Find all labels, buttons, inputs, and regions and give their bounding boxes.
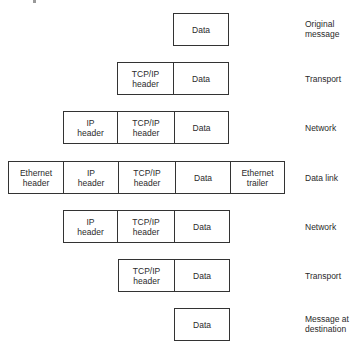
ethernet-trailer-cell: Ethernet trailer (230, 161, 285, 194)
data-cell: Data (175, 161, 230, 194)
layer-label-data-link: Data link (305, 173, 338, 183)
data-cell: Data (174, 259, 230, 292)
row-data-link: Ethernet header IP header TCP/IP header … (8, 161, 285, 194)
tcpip-header-cell: TCP/IP header (117, 210, 174, 243)
tcpip-header-cell: TCP/IP header (118, 259, 174, 292)
data-cell: Data (173, 62, 229, 95)
layer-label-network-receive: Network (305, 222, 336, 232)
layer-label-transport-receive: Transport (305, 271, 341, 281)
ethernet-header-cell: Ethernet header (8, 161, 63, 194)
row-transport-receive: TCP/IP header Data (118, 259, 230, 292)
row-transport-send: TCP/IP header Data (117, 62, 229, 95)
tcpip-header-cell: TCP/IP header (117, 111, 174, 144)
data-cell: Data (174, 111, 229, 144)
row-message-at-destination: Data (174, 308, 230, 341)
data-cell: Data (174, 210, 230, 243)
layer-label-network-send: Network (305, 123, 336, 133)
row-original-message: Data (173, 13, 229, 46)
data-cell: Data (174, 308, 230, 341)
scan-artifact (33, 0, 36, 3)
layer-label-message-at-destination: Message at destination (305, 314, 349, 334)
ip-header-cell: IP header (63, 210, 117, 243)
tcpip-header-cell: TCP/IP header (118, 161, 175, 194)
layer-label-original-message: Original message (305, 19, 340, 39)
ip-header-cell: IP header (63, 111, 117, 144)
data-cell: Data (173, 13, 229, 46)
layer-label-transport-send: Transport (305, 74, 341, 84)
tcpip-header-cell: TCP/IP header (117, 62, 173, 95)
ip-header-cell: IP header (63, 161, 118, 194)
row-network-receive: IP header TCP/IP header Data (63, 210, 230, 243)
row-network-send: IP header TCP/IP header Data (63, 111, 229, 144)
